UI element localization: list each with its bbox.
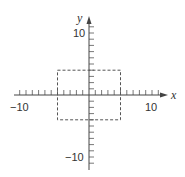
- x-tick-label-10: 10: [145, 101, 157, 113]
- x-tick-label-neg10: −10: [10, 101, 29, 113]
- coordinate-plane: x y −10 10 10 −10: [0, 0, 185, 177]
- y-tick-label-neg10: −10: [65, 151, 84, 163]
- x-axis-arrow-icon: [160, 93, 168, 98]
- y-tick-label-10: 10: [73, 27, 85, 39]
- y-axis-arrow-icon: [87, 16, 92, 24]
- y-axis-label: y: [76, 11, 83, 25]
- x-axis-label: x: [170, 88, 177, 102]
